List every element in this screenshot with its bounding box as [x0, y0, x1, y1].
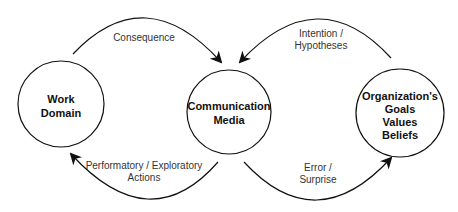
- organization-label-line-1: Organization's: [362, 90, 438, 102]
- work-domain-label-line-2: Domain: [41, 107, 82, 119]
- performatory-label-line-1: Performatory / Exploratory: [86, 160, 203, 171]
- consequence-label: Consequence: [113, 32, 175, 43]
- error-label-line-2: Surprise: [299, 174, 337, 185]
- edge-error-surprise: Error / Surprise: [244, 158, 391, 200]
- organization-label-line-4: Beliefs: [382, 129, 418, 141]
- diagram-canvas: Work Domain Communication Media Organiza…: [0, 0, 458, 212]
- organization-label-line-3: Values: [383, 116, 418, 128]
- work-domain-label-line-1: Work: [47, 93, 75, 105]
- performatory-label-line-2: Actions: [128, 172, 161, 183]
- organization-label-line-2: Goals: [385, 103, 416, 115]
- node-organization: Organization's Goals Values Beliefs: [356, 69, 444, 157]
- edge-performatory-actions: Performatory / Exploratory Actions: [71, 154, 218, 199]
- communication-media-label-line-2: Media: [213, 114, 245, 126]
- intention-label-line-1: Intention /: [299, 28, 343, 39]
- node-work-domain: Work Domain: [18, 61, 104, 147]
- node-communication-media: Communication Media: [187, 70, 271, 154]
- intention-label-line-2: Hypotheses: [295, 40, 348, 51]
- edge-intention-hypotheses: Intention / Hypotheses: [240, 19, 391, 62]
- communication-media-label-line-1: Communication: [187, 100, 270, 112]
- error-label-line-1: Error /: [304, 162, 332, 173]
- edge-consequence: Consequence: [73, 18, 221, 62]
- communication-media-circle: [187, 70, 271, 154]
